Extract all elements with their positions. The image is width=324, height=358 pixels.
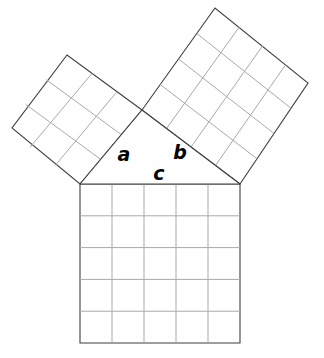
square-on-hypotenuse-c bbox=[80, 184, 240, 343]
square-c-outline bbox=[80, 184, 240, 343]
label-leg-b: b bbox=[173, 141, 187, 163]
pythagoras-diagram-canvas: a b c bbox=[0, 0, 324, 358]
label-leg-a: a bbox=[118, 143, 131, 165]
label-hypotenuse-c: c bbox=[153, 162, 165, 184]
pythagorean-theorem-figure: a b c bbox=[0, 0, 324, 358]
